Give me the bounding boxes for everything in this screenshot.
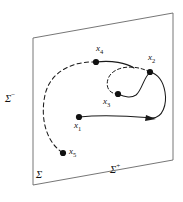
sigma-label: Σ <box>36 170 42 181</box>
point-label-x4: x4 <box>96 44 103 55</box>
point-dot-x4 <box>93 59 99 65</box>
trajectory-diagram: x1 x2 x3 x4 x5 Σ− Σ Σ+ <box>0 0 183 202</box>
point-label-x5: x5 <box>69 147 76 158</box>
point-label-x3: x3 <box>103 97 110 108</box>
diagram-canvas <box>0 0 183 202</box>
point-dot-x5 <box>60 150 66 156</box>
point-dot-x2 <box>147 69 153 75</box>
sigma-minus-label: Σ− <box>5 92 15 104</box>
sigma-plus-label: Σ+ <box>110 163 120 175</box>
point-label-x1: x1 <box>74 121 81 132</box>
point-label-x2: x2 <box>148 53 155 64</box>
point-dot-x3 <box>115 91 121 97</box>
